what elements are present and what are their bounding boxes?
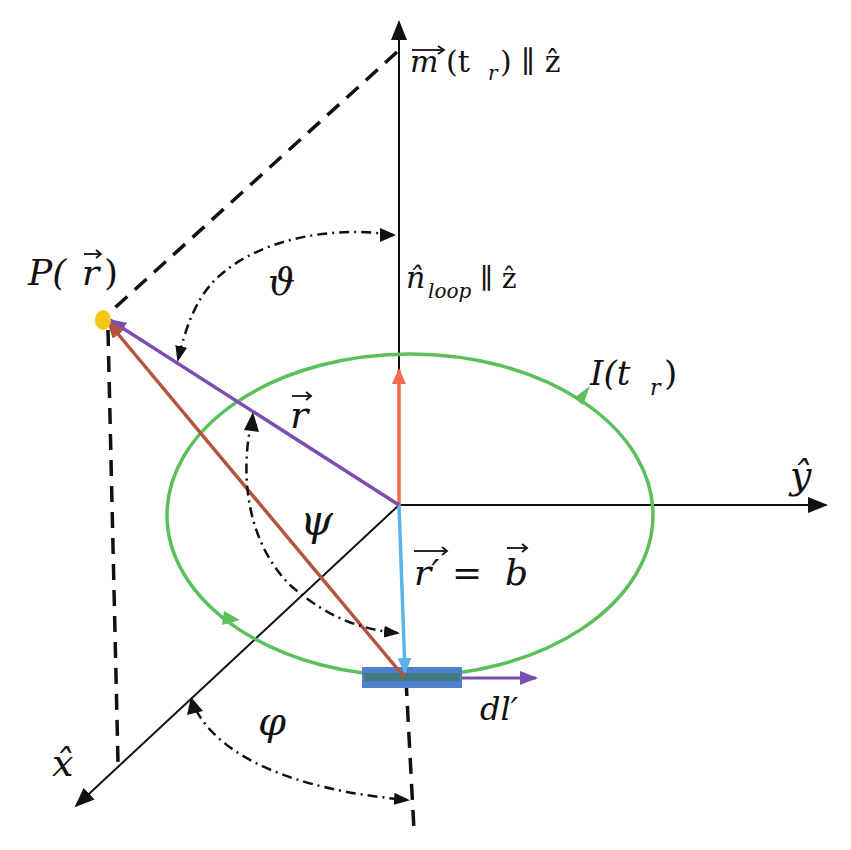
svg-text:r: r [488, 61, 499, 85]
svg-text:loop: loop [428, 279, 471, 303]
x-axis [76, 505, 399, 806]
svg-text:m: m [410, 44, 438, 79]
phi-angle-arc [196, 710, 408, 800]
theta-arrow-top [380, 228, 396, 242]
svg-text:I(t: I(t [589, 353, 631, 393]
label-r-vector: r [290, 392, 311, 437]
label-m-vector: m (t r ) ∥ ẑ [410, 44, 560, 85]
svg-text:): ) [104, 252, 118, 293]
label-current: I(t r ) [589, 353, 677, 400]
svg-text:P(: P( [27, 252, 67, 293]
svg-text:∥ ẑ: ∥ ẑ [480, 262, 517, 295]
svg-text:b: b [505, 552, 528, 593]
label-point-P: P( r ) [27, 250, 118, 293]
label-phi: φ [258, 698, 286, 744]
point-P [95, 310, 111, 330]
dipole-loop-diagram: m (t r ) ∥ ẑ n̂ loop ∥ ẑ P( r ) ϑ I(t r … [0, 0, 851, 850]
svg-text:) ∥ ẑ: ) ∥ ẑ [500, 44, 560, 79]
dashed-line-element-drop [406, 680, 414, 830]
label-x-axis: x̂ [52, 741, 73, 785]
svg-text:(t: (t [446, 44, 470, 79]
r-prime-vector [399, 505, 405, 672]
svg-text:r′: r′ [414, 552, 439, 593]
label-psi: ψ [300, 496, 334, 545]
r-vector [110, 320, 399, 505]
svg-text:r: r [650, 375, 662, 400]
current-element-inner [364, 673, 460, 681]
label-theta: ϑ [268, 260, 295, 304]
label-dl-prime: dl′ [480, 690, 519, 728]
label-r-prime-equals-b: r′ = b [414, 544, 528, 593]
label-n-loop: n̂ loop ∥ ẑ [406, 260, 517, 303]
svg-text:): ) [664, 353, 677, 393]
label-y-axis: ŷ [788, 453, 812, 497]
svg-text:n̂: n̂ [406, 260, 425, 295]
svg-text:r: r [82, 252, 101, 293]
loop-direction-arrow-right [574, 386, 590, 405]
dashed-line-P-drop [108, 330, 118, 762]
dashed-line-m-to-P [108, 52, 397, 314]
svg-text:=: = [452, 552, 482, 593]
